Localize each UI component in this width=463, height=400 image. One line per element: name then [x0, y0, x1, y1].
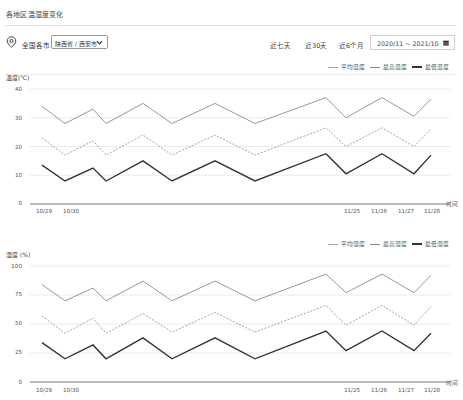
series-line — [42, 331, 431, 359]
series-line — [42, 305, 431, 333]
charts-canvas — [0, 0, 463, 400]
humidity-line-chart — [30, 266, 450, 382]
series-line — [42, 274, 431, 301]
series-line — [42, 98, 431, 124]
series-line — [42, 128, 431, 155]
temperature-line-chart — [30, 89, 450, 204]
series-line — [42, 154, 431, 181]
